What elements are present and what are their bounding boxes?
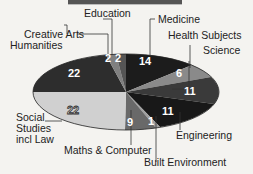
value-maths: 9 (127, 117, 133, 128)
value-health: 6 (176, 68, 182, 79)
value-medicine: 14 (139, 56, 151, 67)
value-science: 11 (184, 86, 196, 97)
label-medicine: Medicine (158, 14, 200, 25)
label-education: Education (84, 8, 131, 19)
value-creative-arts: 2 (105, 53, 111, 64)
label-built-environment: Built Environment (144, 157, 226, 168)
label-maths-computer: Maths & Computer (64, 145, 152, 156)
label-social-3: incl Law (16, 134, 54, 145)
value-engineering: 11 (162, 106, 174, 117)
label-engineering: Engineering (176, 130, 232, 141)
value-humanities: 22 (68, 68, 80, 79)
value-education: 2 (115, 53, 121, 64)
label-humanities: Humanities (10, 40, 63, 51)
label-science: Science (203, 45, 240, 56)
value-social: 22 (67, 105, 79, 116)
value-built: 1 (148, 116, 154, 127)
label-health-subjects: Health Subjects (168, 30, 242, 41)
